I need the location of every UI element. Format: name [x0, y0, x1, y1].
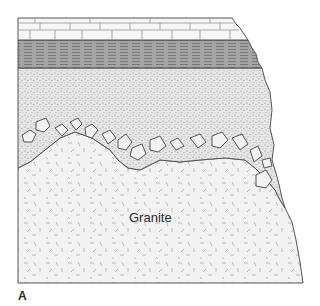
limestone-layer: [18, 18, 248, 40]
panel-label: A: [18, 289, 27, 303]
geologic-cross-section: [0, 0, 320, 306]
granite-label: Granite: [129, 210, 172, 225]
shale-layer: [18, 40, 262, 68]
